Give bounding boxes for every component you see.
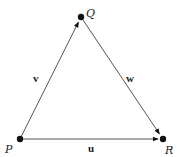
vector-u-label: u bbox=[88, 142, 94, 154]
vector-v-label: v bbox=[33, 72, 39, 84]
point-r-label: R bbox=[164, 144, 173, 157]
point-p bbox=[17, 136, 23, 142]
point-r bbox=[160, 136, 166, 142]
point-q bbox=[78, 14, 84, 20]
point-p-label: P bbox=[4, 143, 13, 156]
vector-w-label: w bbox=[126, 72, 134, 84]
point-q-label: Q bbox=[86, 7, 95, 20]
vector-w-arrow bbox=[81, 17, 160, 134]
vector-v-arrow bbox=[20, 22, 79, 139]
vector-triangle-diagram: P Q R v w u bbox=[0, 0, 183, 157]
